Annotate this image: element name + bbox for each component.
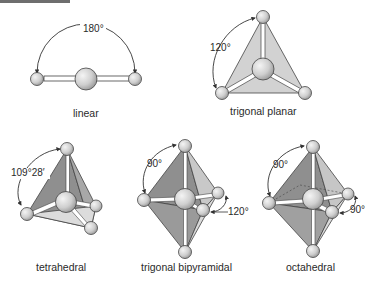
geometry-label: octahedral xyxy=(286,261,335,273)
geometry-label: trigonal planar xyxy=(230,105,297,117)
geometry-label: tetrahedral xyxy=(36,261,86,273)
atom xyxy=(342,188,354,200)
central-atom xyxy=(56,192,77,213)
atom xyxy=(326,206,339,219)
atom xyxy=(31,73,44,86)
atom xyxy=(85,222,98,235)
angle-label-equatorial: 120° xyxy=(228,206,249,217)
atom xyxy=(138,194,151,207)
central-atom xyxy=(303,189,324,210)
atom xyxy=(179,140,192,153)
angle-label-axial: 90° xyxy=(147,158,162,169)
atom xyxy=(307,245,320,258)
geometry-label: trigonal bipyramidal xyxy=(141,261,232,273)
tetrahedral-molecule: 109°28′ tetrahedral xyxy=(8,143,102,274)
atom xyxy=(179,246,192,259)
atom xyxy=(212,187,224,199)
geometry-label: linear xyxy=(73,107,99,119)
atom xyxy=(21,208,34,221)
atom xyxy=(263,197,276,210)
central-atom xyxy=(252,58,274,80)
molecular-geometry-figure: 180° linear 120° trigonal planar 109°28′ xyxy=(0,0,370,281)
trigonal-bipyramidal-molecule: 90° 120° trigonal bipyramidal xyxy=(138,140,249,274)
atom xyxy=(61,143,74,156)
atom xyxy=(90,200,102,212)
central-atom xyxy=(175,189,196,210)
octahedral-molecule: 90° 90° octahedral xyxy=(263,141,366,274)
angle-label: 180° xyxy=(83,23,104,34)
atom xyxy=(307,141,320,154)
atom xyxy=(257,11,270,24)
trigonal-planar-molecule: 120° trigonal planar xyxy=(210,11,312,118)
angle-label-equatorial: 90° xyxy=(350,204,365,215)
angle-label: 120° xyxy=(210,42,231,53)
angle-label-axial: 90° xyxy=(273,159,288,170)
atom xyxy=(197,204,210,217)
linear-molecule: 180° linear xyxy=(31,23,142,119)
angle-label: 109°28′ xyxy=(11,167,45,178)
atom xyxy=(216,87,229,100)
central-atom xyxy=(75,68,97,90)
atom xyxy=(129,73,142,86)
atom xyxy=(299,87,312,100)
